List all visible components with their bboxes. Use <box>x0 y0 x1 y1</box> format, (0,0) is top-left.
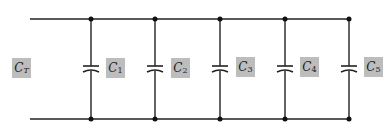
capacitor-branch-1 <box>83 17 99 122</box>
label-subscript: 3 <box>248 65 253 74</box>
junction-node <box>347 117 352 122</box>
label-main: C <box>238 60 247 74</box>
junction-node <box>347 17 352 22</box>
junction-node <box>218 17 223 22</box>
label-capacitor-3: C3 <box>236 57 255 77</box>
junction-node <box>89 117 94 122</box>
label-subscript: 1 <box>118 66 123 75</box>
capacitor-branch-3 <box>212 17 228 122</box>
junction-node <box>218 117 223 122</box>
circuit-diagram <box>0 0 391 133</box>
label-main: C <box>302 60 311 74</box>
label-subscript: 5 <box>376 65 381 74</box>
junction-node <box>283 17 288 22</box>
capacitor-branch-4 <box>277 17 293 122</box>
label-subscript: T <box>23 66 28 75</box>
label-main: C <box>108 61 117 75</box>
label-capacitor-1: C1 <box>106 58 125 78</box>
capacitor-branch-2 <box>147 17 163 122</box>
label-subscript: 2 <box>183 66 188 75</box>
junction-node <box>89 17 94 22</box>
label-capacitor-5: C5 <box>364 57 383 77</box>
label-main: C <box>14 61 23 75</box>
label-main: C <box>173 61 182 75</box>
label-total-capacitance: CT <box>12 58 31 78</box>
label-capacitor-4: C4 <box>300 57 319 77</box>
label-main: C <box>366 60 375 74</box>
junction-node <box>153 17 158 22</box>
junction-node <box>283 117 288 122</box>
capacitor-branch-5 <box>341 17 357 122</box>
junction-node <box>153 117 158 122</box>
label-capacitor-2: C2 <box>171 58 190 78</box>
label-subscript: 4 <box>312 65 317 74</box>
